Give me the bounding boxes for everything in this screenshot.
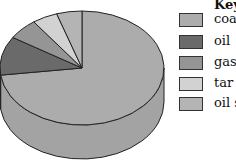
legend-label: oil <box>214 33 230 48</box>
legend-swatch <box>179 13 203 27</box>
legend-label: tar <box>214 75 233 90</box>
legend-label: oil s <box>214 95 236 110</box>
legend-label: coa <box>214 11 236 26</box>
legend-label: gas <box>214 54 236 69</box>
legend-swatch <box>179 56 203 70</box>
legend-swatch <box>179 35 203 49</box>
legend-swatch <box>179 77 203 91</box>
legend-swatch <box>179 97 203 111</box>
